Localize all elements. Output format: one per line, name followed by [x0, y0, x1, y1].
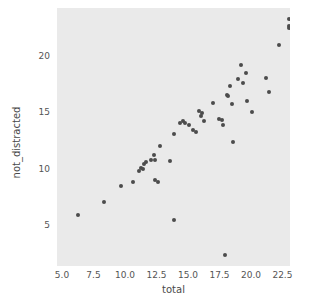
data-point	[287, 17, 290, 21]
plot-area	[57, 8, 290, 266]
data-point	[228, 84, 232, 88]
x-tick-label: 20.0	[241, 270, 261, 280]
data-point	[141, 167, 145, 171]
data-point	[245, 99, 249, 103]
x-tick-label: 12.5	[146, 270, 166, 280]
x-tick-label: 22.5	[272, 270, 292, 280]
y-tick-label: 5	[44, 220, 50, 230]
data-point	[202, 119, 206, 123]
y-tick-label: 20	[39, 51, 50, 61]
x-axis-label: total	[57, 284, 290, 295]
data-point	[267, 90, 271, 94]
data-point	[156, 180, 160, 184]
data-point	[194, 130, 198, 134]
data-point	[102, 200, 106, 204]
data-point	[244, 71, 248, 75]
data-point	[230, 102, 234, 106]
data-point	[239, 63, 243, 67]
data-point	[158, 144, 162, 148]
data-point	[231, 140, 235, 144]
x-tick-label: 5.0	[55, 270, 69, 280]
data-point	[153, 158, 157, 162]
data-point	[144, 160, 148, 164]
data-point	[277, 43, 281, 47]
data-point	[172, 132, 176, 136]
data-point	[168, 159, 172, 163]
x-tick-label: 17.5	[209, 270, 229, 280]
x-tick-label: 7.5	[86, 270, 100, 280]
data-point	[241, 81, 245, 85]
x-tick-label: 10.0	[115, 270, 135, 280]
data-point	[76, 213, 80, 217]
data-point	[131, 180, 135, 184]
data-point	[187, 123, 191, 127]
data-point	[223, 253, 227, 257]
scatter-plot-figure: 5.07.510.012.515.017.520.022.5 5101520 t…	[0, 0, 318, 304]
data-point	[250, 110, 254, 114]
data-point	[221, 123, 225, 127]
x-tick-label: 15.0	[178, 270, 198, 280]
data-point	[200, 111, 204, 115]
y-tick-label: 10	[39, 164, 50, 174]
y-tick-label: 15	[39, 107, 50, 117]
data-point	[236, 77, 240, 81]
data-point	[287, 26, 290, 30]
y-axis-label: not_distracted	[11, 83, 22, 203]
data-point	[172, 218, 176, 222]
data-point	[220, 118, 224, 122]
data-point	[119, 184, 123, 188]
data-point	[264, 76, 268, 80]
data-point	[211, 101, 215, 105]
data-point	[152, 153, 156, 157]
data-point	[226, 94, 230, 98]
